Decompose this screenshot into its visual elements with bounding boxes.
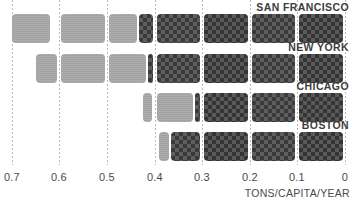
- bar-segment: [252, 132, 295, 161]
- bar-segment: [157, 93, 193, 122]
- bar-segment: [109, 54, 146, 83]
- bar-segment: [252, 14, 295, 43]
- bar-segment: [299, 93, 343, 122]
- bar-segment: [139, 14, 153, 43]
- bar-segment: [204, 14, 248, 43]
- bar-segment: [299, 132, 343, 161]
- bar-segment: [61, 14, 105, 43]
- bar-segment: [299, 54, 343, 83]
- bar-segment: [61, 54, 105, 83]
- bar-row-label-boston: BOSTON: [302, 119, 349, 131]
- bar-row-san-francisco: SAN FRANCISCO: [0, 14, 353, 43]
- bar-segment: [36, 54, 57, 83]
- x-tick-label-0-0: 0: [342, 171, 348, 183]
- bar-row-boston: BOSTON: [0, 132, 353, 161]
- bar-segment: [157, 54, 200, 83]
- bar-segment: [204, 54, 248, 83]
- x-tick-label-0-5: 0.5: [99, 171, 115, 183]
- bar-row-label-san-francisco: SAN FRANCISCO: [256, 1, 349, 13]
- stacked-bar-chart: SAN FRANCISCO NEW YORK CHICAGO BOSTON: [0, 0, 353, 201]
- bar-segment: [252, 93, 295, 122]
- bar-segment: [109, 14, 137, 43]
- bar-row-label-new-york: NEW YORK: [288, 41, 349, 53]
- bar-segment: [12, 14, 50, 43]
- bar-row-label-chicago: CHICAGO: [297, 80, 349, 92]
- bar-row-chicago: CHICAGO: [0, 93, 353, 122]
- bar-segment: [299, 14, 343, 43]
- bar-row-new-york: NEW YORK: [0, 54, 353, 83]
- bar-segment: [143, 93, 152, 122]
- bar-segment: [204, 93, 248, 122]
- x-tick-label-0-3: 0.3: [194, 171, 210, 183]
- bar-segment: [157, 14, 200, 43]
- x-tick-label-0-6: 0.6: [51, 171, 67, 183]
- x-tick-label-0-2: 0.2: [242, 171, 258, 183]
- x-tick-label-0-7: 0.7: [4, 171, 20, 183]
- x-tick-label-0-4: 0.4: [147, 171, 163, 183]
- bar-segment: [159, 132, 169, 161]
- x-tick-label-0-1: 0.1: [289, 171, 305, 183]
- x-axis-title: TONS/CAPITA/YEAR: [245, 187, 350, 199]
- bar-segment: [171, 132, 200, 161]
- bar-segment: [204, 132, 248, 161]
- bar-segment: [148, 54, 153, 83]
- bar-segment: [252, 54, 295, 83]
- bar-segment: [195, 93, 200, 122]
